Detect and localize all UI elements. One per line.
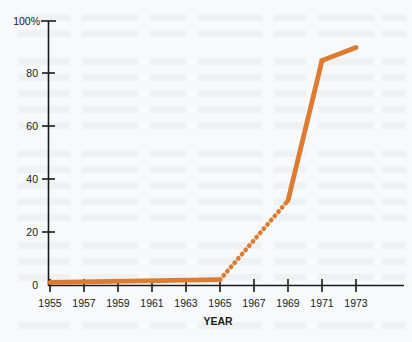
x-tick-label-1965: 1965 [208,297,232,309]
x-tick-label-1967: 1967 [242,297,266,309]
y-tick-label-60: 60 [26,120,38,132]
data-series-adoption [50,47,356,282]
line-chart: 100% 80 60 40 20 0 1955 1957 1959 1961 1… [0,0,412,342]
y-tick-label-100: 100% [13,15,40,27]
y-tick-label-40: 40 [26,173,38,185]
x-tick-label-1971: 1971 [310,297,334,309]
y-tick-label-0: 0 [32,279,38,291]
x-tick-label-1957: 1957 [72,297,96,309]
x-axis-title: YEAR [203,315,233,327]
x-tick-label-1969: 1969 [276,297,300,309]
x-tick-label-1955: 1955 [38,297,62,309]
series-segment-dotted [220,201,288,280]
x-tick-label-1961: 1961 [140,297,164,309]
y-tick-label-20: 20 [26,226,38,238]
x-tick-label-1963: 1963 [174,297,198,309]
x-tick-label-1959: 1959 [106,297,130,309]
chart-page: 100% 80 60 40 20 0 1955 1957 1959 1961 1… [0,0,412,342]
series-segment-solid [322,47,356,60]
series-segment-solid [50,280,220,283]
series-segment-solid [288,61,322,201]
y-tick-label-80: 80 [26,67,38,79]
x-tick-label-1973: 1973 [344,297,368,309]
